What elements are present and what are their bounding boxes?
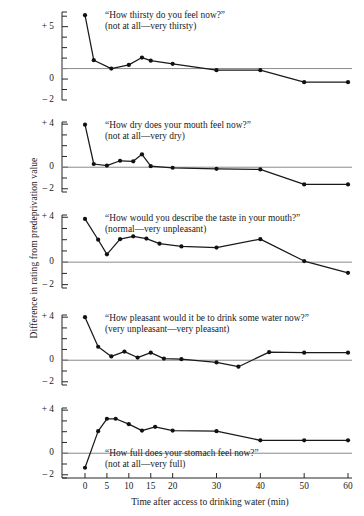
data-point <box>92 58 96 62</box>
data-point <box>96 238 100 242</box>
y-tick-label: + 4 <box>28 404 54 414</box>
y-axis-line <box>62 408 67 478</box>
x-axis <box>62 473 352 478</box>
y-axis-line <box>62 215 67 288</box>
data-point <box>127 422 131 426</box>
data-point <box>83 315 87 319</box>
y-tick-label: 0 <box>28 354 54 364</box>
y-tick-label: + 4 <box>28 311 54 321</box>
data-point <box>214 429 218 433</box>
y-tick-label: 0 <box>28 447 54 457</box>
data-point <box>114 417 118 421</box>
panel-question-taste: “How would you describe the taste in you… <box>105 213 300 236</box>
data-point <box>105 417 109 421</box>
y-axis-label: Difference in rating from predeprivation… <box>29 118 39 378</box>
panel-question-dry-mouth: “How dry does your mouth feel now?”(not … <box>105 120 251 143</box>
data-point <box>109 66 113 70</box>
y-tick-label: + 5 <box>28 21 54 31</box>
data-point <box>96 345 100 349</box>
data-point <box>267 350 271 354</box>
y-axis-line <box>62 12 67 100</box>
data-point <box>302 182 306 186</box>
data-point <box>131 159 135 163</box>
data-point <box>118 237 122 241</box>
x-tick-label: 10 <box>119 481 139 491</box>
data-point <box>96 429 100 433</box>
x-tick-label: 15 <box>141 481 161 491</box>
data-point <box>149 351 153 355</box>
data-point <box>105 252 109 256</box>
panel-question-thirsty: “How thirsty do you feel now?”(not at al… <box>105 10 225 33</box>
data-point <box>171 62 175 66</box>
question-anchors: (not at all—very dry) <box>105 131 251 142</box>
data-point <box>346 182 350 186</box>
y-tick-label: 0 <box>28 161 54 171</box>
x-tick-label: 20 <box>163 481 183 491</box>
data-point <box>302 438 306 442</box>
data-point <box>105 164 109 168</box>
question-line: “How would you describe the taste in you… <box>105 213 300 223</box>
x-tick-label: 50 <box>294 481 314 491</box>
data-point <box>214 245 218 249</box>
data-point <box>346 80 350 84</box>
data-point <box>118 159 122 163</box>
data-point <box>179 357 183 361</box>
y-tick-label: 0 <box>28 73 54 83</box>
question-line: “How thirsty do you feel now?” <box>105 10 225 20</box>
x-tick-label: 40 <box>250 481 270 491</box>
data-point <box>214 167 218 171</box>
data-point <box>346 271 350 275</box>
y-axis-line <box>62 315 67 385</box>
data-point <box>214 360 218 364</box>
x-axis-label: Time after access to drinking water (min… <box>60 497 360 507</box>
panel-question-stomach-full: “How full does your stomach feel now?”(n… <box>105 448 259 471</box>
y-tick-label: – 2 <box>28 279 54 289</box>
question-line: “How dry does your mouth feel now?” <box>105 120 251 130</box>
x-tick-label: 5 <box>97 481 117 491</box>
x-tick-label: 0 <box>75 481 95 491</box>
question-anchors: (not at all—very thirsty) <box>105 21 225 32</box>
multi-panel-line-chart: Difference in rating from predeprivation… <box>0 0 364 516</box>
data-point <box>109 354 113 358</box>
data-point <box>214 68 218 72</box>
data-point <box>258 167 262 171</box>
y-tick-label: 0 <box>28 256 54 266</box>
panel-question-pleasant: “How pleasant would it be to drink some … <box>105 313 309 336</box>
data-point <box>302 80 306 84</box>
question-anchors: (not at all—very full) <box>105 459 259 470</box>
y-tick-label: – 2 <box>28 469 54 479</box>
data-point <box>83 466 87 470</box>
data-point <box>157 242 161 246</box>
data-point <box>83 123 87 127</box>
question-anchors: (normal—very unpleasant) <box>105 224 300 235</box>
data-point <box>149 164 153 168</box>
data-point <box>144 236 148 240</box>
plot-canvas <box>0 0 364 516</box>
data-point <box>140 152 144 156</box>
data-point <box>171 166 175 170</box>
question-anchors: (very unpleasant—very pleasant) <box>105 324 309 335</box>
data-point <box>140 429 144 433</box>
data-point <box>258 68 262 72</box>
y-tick-label: + 4 <box>28 118 54 128</box>
data-point <box>136 355 140 359</box>
data-point <box>149 59 153 63</box>
data-point <box>140 55 144 59</box>
data-point <box>346 438 350 442</box>
data-point <box>236 365 240 369</box>
data-point <box>92 162 96 166</box>
data-point <box>83 217 87 221</box>
data-point <box>302 259 306 263</box>
question-line: “How full does your stomach feel now?” <box>105 448 259 458</box>
x-tick-label: 30 <box>207 481 227 491</box>
question-line: “How pleasant would it be to drink some … <box>105 313 309 323</box>
data-point <box>83 13 87 17</box>
data-point <box>127 63 131 67</box>
data-point <box>179 244 183 248</box>
data-point <box>171 429 175 433</box>
data-point <box>346 351 350 355</box>
x-tick-label: 60 <box>338 481 358 491</box>
y-tick-label: – 2 <box>28 376 54 386</box>
data-point <box>258 438 262 442</box>
data-point <box>122 350 126 354</box>
